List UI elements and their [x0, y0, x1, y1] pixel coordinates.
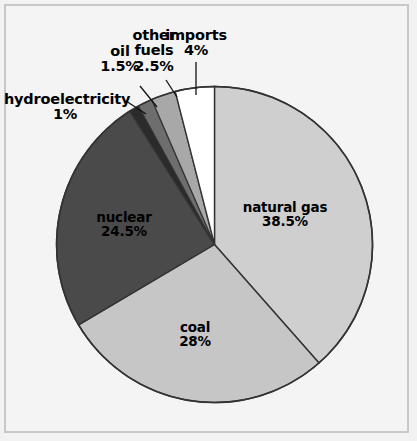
chart-page: hydroelectricity 1% oil 1.5% other fuels… — [0, 0, 417, 441]
slice-label-hydroelectricity: hydroelectricity 1% — [4, 92, 126, 123]
slice-label-coal: coal 28% — [155, 320, 235, 349]
slice-label-nuclear-value: 24.5% — [78, 224, 170, 238]
slice-label-natural-gas-value: 38.5% — [230, 214, 340, 228]
slice-label-imports-name: imports — [164, 28, 228, 43]
pie-slices — [56, 86, 372, 402]
slice-label-natural-gas-name: natural gas — [230, 200, 340, 214]
slice-label-nuclear-name: nuclear — [78, 210, 170, 224]
slice-label-other-fuels-value: 2.5% — [128, 59, 180, 74]
slice-label-coal-name: coal — [155, 320, 235, 334]
slice-label-nuclear: nuclear 24.5% — [78, 210, 170, 239]
slice-label-natural-gas: natural gas 38.5% — [230, 200, 340, 229]
slice-label-coal-value: 28% — [155, 334, 235, 348]
slice-label-imports-value: 4% — [164, 43, 228, 58]
slice-label-hydroelectricity-name: hydroelectricity — [4, 92, 126, 107]
slice-label-imports: imports 4% — [164, 28, 228, 59]
pie-chart — [0, 0, 417, 441]
slice-label-hydroelectricity-value: 1% — [4, 107, 126, 122]
